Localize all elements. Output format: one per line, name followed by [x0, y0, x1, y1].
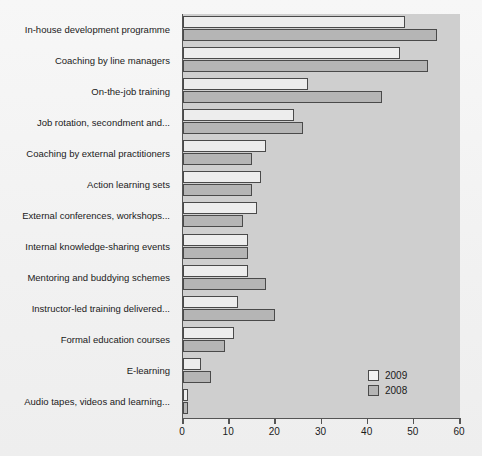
bar-2008-5	[183, 153, 252, 165]
bar-group	[183, 107, 460, 138]
bar-2009-7	[183, 202, 257, 214]
x-axis-tick-label: 10	[223, 426, 234, 437]
x-axis-tick-label: 20	[269, 426, 280, 437]
bar-2008-1	[183, 29, 437, 41]
x-axis-tick	[228, 418, 230, 424]
bar-2008-7	[183, 215, 243, 227]
bar-2009-8	[183, 234, 248, 246]
y-axis-label: Coaching by line managers	[55, 55, 170, 66]
legend-swatch-icon	[368, 370, 379, 381]
y-axis-label: Internal knowledge-sharing events	[25, 241, 170, 252]
y-axis-category-labels: In-house development programmeCoaching b…	[0, 14, 176, 418]
bar-group	[183, 356, 460, 387]
y-axis-label: Audio tapes, videos and learning...	[24, 396, 170, 407]
bar-2008-2	[183, 60, 428, 72]
bar-2009-3	[183, 78, 308, 90]
bar-2009-13	[183, 389, 188, 401]
bar-2009-12	[183, 358, 201, 370]
legend-label: 2009	[385, 370, 407, 381]
bar-2008-3	[183, 91, 382, 103]
bar-2009-10	[183, 296, 238, 308]
x-axis-tick	[413, 418, 415, 424]
y-axis-label: E-learning	[127, 365, 170, 376]
x-axis-tick	[459, 418, 461, 424]
bar-2008-12	[183, 371, 211, 383]
bar-2009-11	[183, 327, 234, 339]
bar-group	[183, 294, 460, 325]
y-axis-label: Instructor-led training delivered...	[32, 303, 170, 314]
x-axis-tick-label: 0	[179, 426, 185, 437]
y-axis-label: On-the-job training	[91, 86, 170, 97]
y-axis-label: Job rotation, secondment and...	[37, 117, 170, 128]
bar-2008-9	[183, 278, 266, 290]
bar-2008-4	[183, 122, 303, 134]
x-axis-tick-label: 40	[361, 426, 372, 437]
y-axis-label: In-house development programme	[25, 24, 170, 35]
y-axis-label: Mentoring and buddying schemes	[27, 272, 170, 283]
bar-2008-6	[183, 184, 252, 196]
bar-2009-9	[183, 265, 248, 277]
legend-item-2008: 2008	[368, 385, 407, 396]
bar-2008-13	[183, 402, 188, 414]
bar-2009-5	[183, 140, 266, 152]
bar-2009-1	[183, 16, 405, 28]
x-axis-tick-label: 50	[407, 426, 418, 437]
bar-2009-2	[183, 47, 400, 59]
legend-label: 2008	[385, 385, 407, 396]
bar-2009-4	[183, 109, 294, 121]
x-axis-tick	[367, 418, 369, 424]
y-axis-label: Action learning sets	[87, 179, 170, 190]
bar-group	[183, 387, 460, 418]
bar-2009-6	[183, 171, 261, 183]
bar-2008-10	[183, 309, 275, 321]
x-axis-tick	[182, 418, 184, 424]
chart-legend: 20092008	[368, 370, 407, 396]
plot-area	[182, 14, 460, 419]
bar-2008-11	[183, 340, 225, 352]
bar-group	[183, 232, 460, 263]
bar-group	[183, 138, 460, 169]
x-axis-tick-label: 30	[315, 426, 326, 437]
bar-group	[183, 76, 460, 107]
x-axis-tick	[274, 418, 276, 424]
x-axis-tick-label: 60	[453, 426, 464, 437]
bar-group	[183, 14, 460, 45]
bar-group	[183, 263, 460, 294]
y-axis-label: Coaching by external practitioners	[26, 148, 170, 159]
legend-swatch-icon	[368, 385, 379, 396]
y-axis-label: External conferences, workshops...	[22, 210, 170, 221]
bar-2008-8	[183, 247, 248, 259]
bars-layer	[183, 14, 460, 418]
bar-group	[183, 169, 460, 200]
x-axis: 0102030405060	[182, 418, 459, 444]
bar-group	[183, 45, 460, 76]
x-axis-tick	[321, 418, 323, 424]
bar-group	[183, 200, 460, 231]
bar-chart: In-house development programmeCoaching b…	[0, 0, 482, 456]
legend-item-2009: 2009	[368, 370, 407, 381]
bar-group	[183, 325, 460, 356]
y-axis-label: Formal education courses	[61, 334, 170, 345]
